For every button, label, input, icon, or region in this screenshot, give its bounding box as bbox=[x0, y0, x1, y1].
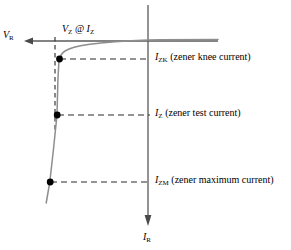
axis-label-vr: VR bbox=[3, 30, 14, 40]
annotation-iz-subscript: Z bbox=[90, 28, 94, 36]
label-iz-subscript: Z bbox=[158, 112, 162, 120]
horizontal-axis-arrowhead bbox=[24, 38, 33, 45]
annotation-at-glyph: @ bbox=[75, 23, 84, 34]
label-iz-text: (zener test current) bbox=[165, 107, 241, 118]
marker-zener-test-current bbox=[54, 112, 61, 119]
label-zener-test-current: IZ (zener test current) bbox=[155, 108, 241, 118]
label-izk-subscript: ZK bbox=[158, 56, 167, 64]
leader-lines-group bbox=[51, 59, 150, 182]
annotation-vz-at-iz: VZ @ IZ bbox=[62, 24, 94, 34]
zener-curve-svg bbox=[0, 0, 291, 250]
zener-characteristic-figure: VR VZ @ IZ IZK (zener knee current) IZ (… bbox=[0, 0, 291, 250]
label-zener-knee-current: IZK (zener knee current) bbox=[155, 52, 251, 62]
axis-label-ir: IR bbox=[143, 232, 151, 242]
label-zener-maximum-current: IZM (zener maximum current) bbox=[155, 175, 274, 185]
marker-zener-knee-current bbox=[56, 56, 63, 63]
marker-zener-maximum-current bbox=[47, 179, 54, 186]
axis-label-vr-subscript: R bbox=[9, 34, 14, 42]
label-izm-text: (zener maximum current) bbox=[171, 174, 273, 185]
axis-label-ir-subscript: R bbox=[146, 236, 151, 244]
label-izm-subscript: ZM bbox=[158, 179, 169, 187]
label-izk-text: (zener knee current) bbox=[170, 51, 251, 62]
vertical-axis-arrowhead bbox=[145, 215, 152, 226]
annotation-vz-subscript: Z bbox=[68, 28, 72, 36]
